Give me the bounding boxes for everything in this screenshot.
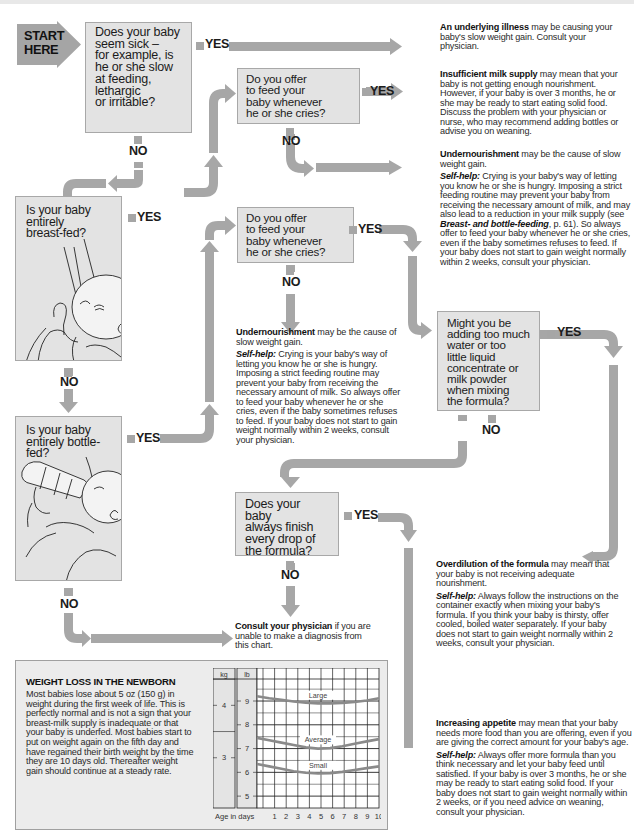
question-box-finish-formula: Does your baby always finish every drop … xyxy=(235,492,339,556)
question-text: Might you be adding too much water or to… xyxy=(447,317,530,407)
question-box-offer-feed-bottle: Do you offer to feed your baby whenever … xyxy=(237,207,354,263)
svg-text:9: 9 xyxy=(365,812,369,821)
yes-marker xyxy=(127,435,135,443)
yes-label: YES xyxy=(370,84,394,98)
question-box-bottle-fed: Is your baby entirely bottle-fed? xyxy=(15,416,122,581)
svg-text:5: 5 xyxy=(319,812,323,821)
no-marker xyxy=(488,415,496,423)
answer-title: Overdilution of the formula xyxy=(436,559,549,569)
answer-increasing-appetite: Increasing appetite may mean that your b… xyxy=(436,719,632,817)
svg-text:7: 7 xyxy=(245,744,249,753)
yes-label: YES xyxy=(137,210,161,224)
answer-undernourishment-bottle: Undernourishment may be the cause of slo… xyxy=(236,328,404,445)
svg-text:7: 7 xyxy=(342,812,346,821)
svg-text:2: 2 xyxy=(284,812,288,821)
yes-marker xyxy=(349,226,357,234)
weight-chart: kglb5678934LargeAverageSmallAge in days1… xyxy=(213,668,381,826)
question-text: Does your baby seem sick – for example, … xyxy=(95,27,182,109)
yes-label: YES xyxy=(205,37,229,51)
infobox-title: WEIGHT LOSS IN THE NEWBORN xyxy=(26,676,175,687)
yes-marker xyxy=(196,42,204,50)
svg-text:4: 4 xyxy=(222,701,226,710)
infobox-body: Most babies lose about 5 oz (150 g) in w… xyxy=(26,690,196,776)
yes-label: YES xyxy=(136,431,160,445)
svg-text:8: 8 xyxy=(354,812,358,821)
svg-text:kg: kg xyxy=(220,671,228,679)
yes-marker xyxy=(344,512,352,520)
question-text: Do you offer to feed your baby whenever … xyxy=(246,73,351,119)
svg-text:8: 8 xyxy=(245,720,249,729)
svg-text:Age in days: Age in days xyxy=(215,812,254,821)
no-label: NO xyxy=(482,423,500,437)
svg-text:3: 3 xyxy=(296,812,300,821)
yes-label: YES xyxy=(354,508,378,522)
svg-text:1: 1 xyxy=(273,812,277,821)
question-box-offer-feed-breast: Do you offer to feed your baby whenever … xyxy=(237,68,360,124)
answer-undernourishment-breast: Undernourishment may be the cause of slo… xyxy=(440,150,632,267)
question-text: Does your baby always finish every drop … xyxy=(245,499,329,558)
bottlefeeding-illustration xyxy=(16,417,122,581)
yes-marker xyxy=(128,214,136,222)
question-box-seems-sick: Does your baby seem sick – for example, … xyxy=(85,22,192,133)
svg-text:9: 9 xyxy=(245,697,249,706)
yes-label: YES xyxy=(358,222,382,236)
yes-label: YES xyxy=(557,325,581,339)
svg-text:6: 6 xyxy=(245,768,249,777)
start-here-label: START HERE xyxy=(24,29,64,57)
question-box-formula-mixing: Might you be adding too much water or to… xyxy=(437,311,540,411)
no-marker xyxy=(286,267,294,275)
answer-consult-physician: Consult your physician if you are unable… xyxy=(235,622,375,651)
cross-reference-link: Breast- and bottle-feeding xyxy=(440,219,549,229)
no-label: NO xyxy=(129,144,147,158)
svg-text:4: 4 xyxy=(307,812,311,821)
svg-text:3: 3 xyxy=(222,753,226,762)
svg-text:6: 6 xyxy=(331,812,335,821)
answer-title: Undernourishment xyxy=(440,149,519,159)
question-box-breast-fed: Is your baby entirely breast-fed? xyxy=(15,196,122,361)
svg-text:Small: Small xyxy=(309,761,327,770)
no-label: NO xyxy=(281,568,299,582)
no-marker xyxy=(134,136,142,144)
svg-text:lb: lb xyxy=(244,671,250,678)
answer-title: Insufficient milk supply xyxy=(440,69,537,79)
answer-title: Increasing appetite xyxy=(436,718,516,728)
svg-text:Large: Large xyxy=(309,691,327,700)
yes-marker xyxy=(362,88,370,96)
svg-text:Average: Average xyxy=(305,735,332,744)
breastfeeding-illustration xyxy=(16,197,122,361)
no-label: NO xyxy=(60,597,78,611)
svg-text:5: 5 xyxy=(245,792,249,801)
answer-title: Consult your physician xyxy=(235,621,332,631)
question-text: Do you offer to feed your baby whenever … xyxy=(246,212,345,258)
no-label: NO xyxy=(282,134,300,148)
answer-title: Undernourishment xyxy=(236,327,315,337)
answer-underlying-illness: An underlying illness may be causing you… xyxy=(440,23,625,52)
answer-title: An underlying illness xyxy=(440,22,529,32)
no-label: NO xyxy=(282,275,300,289)
answer-overdilution: Overdilution of the formula may mean tha… xyxy=(436,560,626,649)
svg-text:10: 10 xyxy=(375,812,381,821)
answer-insufficient-milk: Insufficient milk supply may mean that y… xyxy=(440,70,632,137)
yes-marker xyxy=(547,330,555,338)
no-label: NO xyxy=(60,375,78,389)
